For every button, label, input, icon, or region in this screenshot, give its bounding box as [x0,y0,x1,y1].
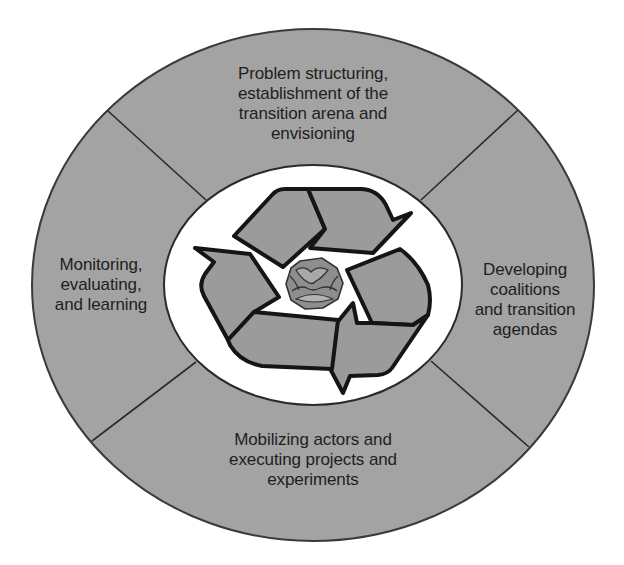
segment-label-line: Monitoring, [38,255,164,275]
segment-label-line: executing projects and [198,450,428,470]
segment-label-line: envisioning [213,124,413,144]
segment-label-line: coalitions [462,280,588,300]
segment-label-line: transition arena and [213,104,413,124]
segment-label-line: Mobilizing actors and [198,430,428,450]
segment-label-line: Problem structuring, [213,64,413,84]
arrow-left-tail [228,312,338,369]
segment-label-line: and learning [38,295,164,315]
segment-label-line: Developing [462,260,588,280]
segment-label-left: Monitoring, evaluating, and learning [38,255,164,315]
globe-icon [286,258,343,309]
segment-label-line: experiments [198,470,428,490]
segment-label-line: evaluating, [38,275,164,295]
segment-label-line: agendas [462,320,588,340]
segment-label-top: Problem structuring, establishment of th… [213,64,413,144]
segment-label-bottom: Mobilizing actors and executing projects… [198,430,428,490]
segment-label-line: establishment of the [213,84,413,104]
segment-label-right: Developing coalitions and transition age… [462,260,588,340]
segment-label-line: and transition [462,300,588,320]
